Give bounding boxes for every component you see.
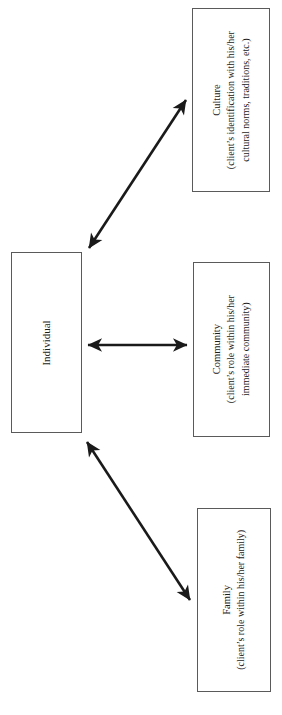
node-family[interactable]: Family (client’s role within his/her fam…	[197, 508, 271, 692]
node-community-text: Community (client’s role within his/her …	[209, 295, 253, 403]
node-family-text: Family (client’s role within his/her fam…	[219, 530, 249, 670]
connector-individual-culture	[89, 100, 186, 248]
node-community-label: Community	[209, 295, 224, 403]
node-individual[interactable]: Individual	[11, 252, 82, 433]
node-culture-label: Culture	[209, 31, 224, 169]
node-individual-label: Individual	[39, 320, 55, 365]
node-family-label: Family	[219, 530, 234, 670]
node-culture-text: Culture (client’s identification with hi…	[209, 31, 253, 169]
node-culture-description-line-2: cultural norms, traditions, etc.)	[239, 31, 254, 169]
node-culture-description: (client’s identification with his/her cu…	[224, 31, 253, 169]
node-community-description: (client’s role within his/her immediate …	[225, 295, 254, 403]
node-community[interactable]: Community (client’s role within his/her …	[193, 262, 270, 437]
node-community-description-line-2: immediate community)	[239, 295, 254, 403]
connector-individual-family	[87, 442, 190, 600]
node-community-description-line-1: (client’s role within his/her	[225, 295, 240, 403]
node-individual-text: Individual	[39, 320, 55, 365]
node-family-description-line-1: (client’s role within his/her family)	[234, 530, 249, 670]
node-culture[interactable]: Culture (client’s identification with hi…	[192, 8, 270, 192]
node-culture-description-line-1: (client’s identification with his/her	[224, 31, 239, 169]
node-family-description: (client’s role within his/her family)	[234, 530, 249, 670]
diagram-canvas: Individual Culture (client’s identificat…	[0, 0, 282, 715]
